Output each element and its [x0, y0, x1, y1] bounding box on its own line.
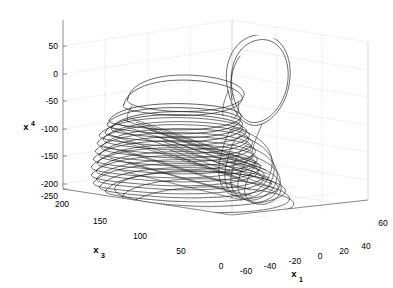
x3-tick-label: 150 — [93, 216, 107, 226]
figure-background — [0, 0, 393, 288]
plot-canvas: 50 0 -50 -100 -150 -200 -250 200 150 100… — [0, 0, 393, 288]
z-tick-label: 50 — [49, 41, 59, 51]
z-axis-title-base: x — [23, 121, 29, 132]
figure-3d-phase-portrait: 50 0 -50 -100 -150 -200 -250 200 150 100… — [0, 0, 393, 288]
x1-tick-label: 40 — [361, 241, 371, 251]
z-tick-label: -200 — [41, 179, 58, 189]
x3-tick-label: 100 — [133, 231, 147, 241]
x1-tick-label: -40 — [264, 261, 277, 271]
x1-tick-label: -60 — [240, 266, 253, 276]
x3-tick-label: 50 — [176, 246, 186, 256]
x1-tick-label: 20 — [339, 246, 349, 256]
x3-axis-title-base: x — [93, 244, 99, 255]
z-axis-title-subscript: 4 — [31, 120, 35, 127]
z-tick-label: -50 — [46, 96, 59, 106]
x3-tick-label: 200 — [55, 199, 69, 209]
z-tick-label: 0 — [53, 69, 58, 79]
x1-axis-title-subscript: 1 — [299, 276, 303, 283]
x1-tick-label: -20 — [289, 256, 302, 266]
x3-tick-label: 0 — [219, 261, 224, 271]
x1-axis-title-base: x — [291, 268, 297, 279]
z-tick-label: -150 — [41, 151, 58, 161]
z-tick-label: -100 — [41, 124, 58, 134]
x1-tick-label: 0 — [318, 251, 323, 261]
x1-tick-label: 60 — [378, 218, 388, 228]
x3-axis-title-subscript: 3 — [101, 252, 105, 259]
